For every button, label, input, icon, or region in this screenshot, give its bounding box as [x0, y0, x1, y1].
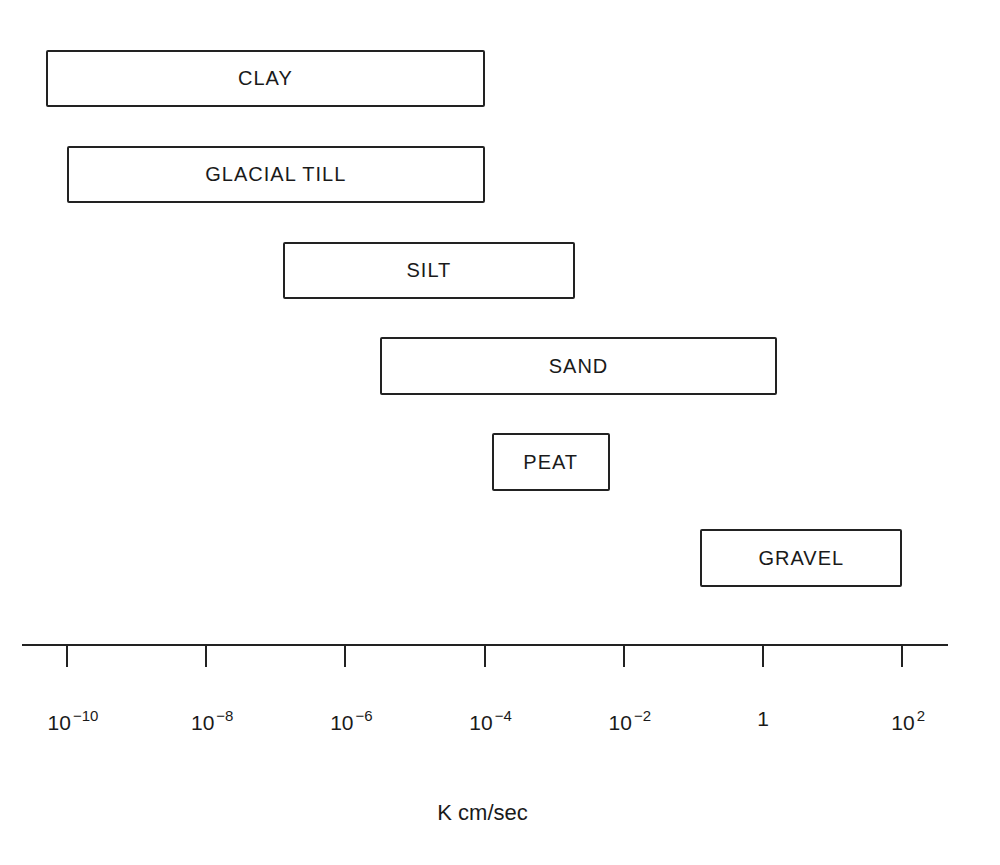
x-tick-label: 1	[757, 707, 769, 731]
x-tick-label: 10−4	[469, 707, 511, 735]
x-tick-mark	[344, 645, 346, 667]
x-tick-mark	[66, 645, 68, 667]
range-bar-clay: CLAY	[46, 50, 484, 107]
range-bar-gravel: GRAVEL	[700, 529, 902, 587]
x-tick-label: 102	[891, 707, 925, 735]
x-tick-label: 10−6	[330, 707, 372, 735]
x-tick-label: 10−10	[48, 707, 99, 735]
range-bar-label: PEAT	[523, 451, 578, 474]
range-bar-label: GRAVEL	[758, 547, 844, 570]
x-tick-mark	[623, 645, 625, 667]
x-tick-label: 10−8	[191, 707, 233, 735]
range-bar-label: SAND	[549, 355, 609, 378]
x-tick-mark	[901, 645, 903, 667]
range-bar-silt: SILT	[283, 242, 575, 299]
range-bar-sand: SAND	[380, 337, 777, 395]
range-bar-label: GLACIAL TILL	[205, 163, 346, 186]
range-bar-peat: PEAT	[492, 433, 610, 491]
range-bar-glacial-till: GLACIAL TILL	[67, 146, 485, 203]
x-tick-mark	[762, 645, 764, 667]
x-tick-mark	[205, 645, 207, 667]
range-bar-label: CLAY	[238, 67, 293, 90]
x-axis-label: K cm/sec	[0, 800, 965, 826]
x-tick-mark	[484, 645, 486, 667]
range-bar-label: SILT	[407, 259, 452, 282]
x-tick-label: 10−2	[609, 707, 651, 735]
